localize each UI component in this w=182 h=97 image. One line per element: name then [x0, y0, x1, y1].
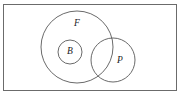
venn-diagram-canvas: F B P: [0, 0, 182, 97]
set-label-p: P: [116, 55, 123, 65]
venn-diagram-figure: F B P: [0, 0, 182, 97]
set-label-b: B: [67, 46, 73, 56]
universal-set-rectangle: [4, 5, 177, 91]
set-label-f: F: [73, 18, 80, 28]
